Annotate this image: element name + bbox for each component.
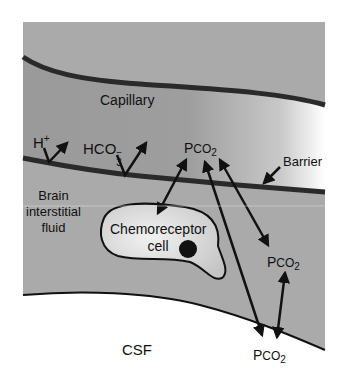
pco2-interstitial-label: PCO2 [267,255,300,272]
brain-interstitial-fluid-label: Brain interstitial fluid [26,188,81,236]
h-base: H [33,134,44,151]
barrier-label: Barrier [283,155,322,168]
h-charge: + [44,133,50,144]
hco3-subscript: 3 [116,158,122,168]
chemoreceptor-cell-label: Chemoreceptor cell [110,221,206,255]
pco2-capillary-label: PCO2 [184,141,217,158]
bicarbonate-label: HCO−3 [83,141,124,156]
h-ion-label: H+ [33,134,50,150]
hco3-base: HCO [83,140,116,157]
csf-label: CSF [122,342,152,357]
pco2-csf-label: PCO2 [253,348,286,365]
capillary-label: Capillary [100,93,154,107]
